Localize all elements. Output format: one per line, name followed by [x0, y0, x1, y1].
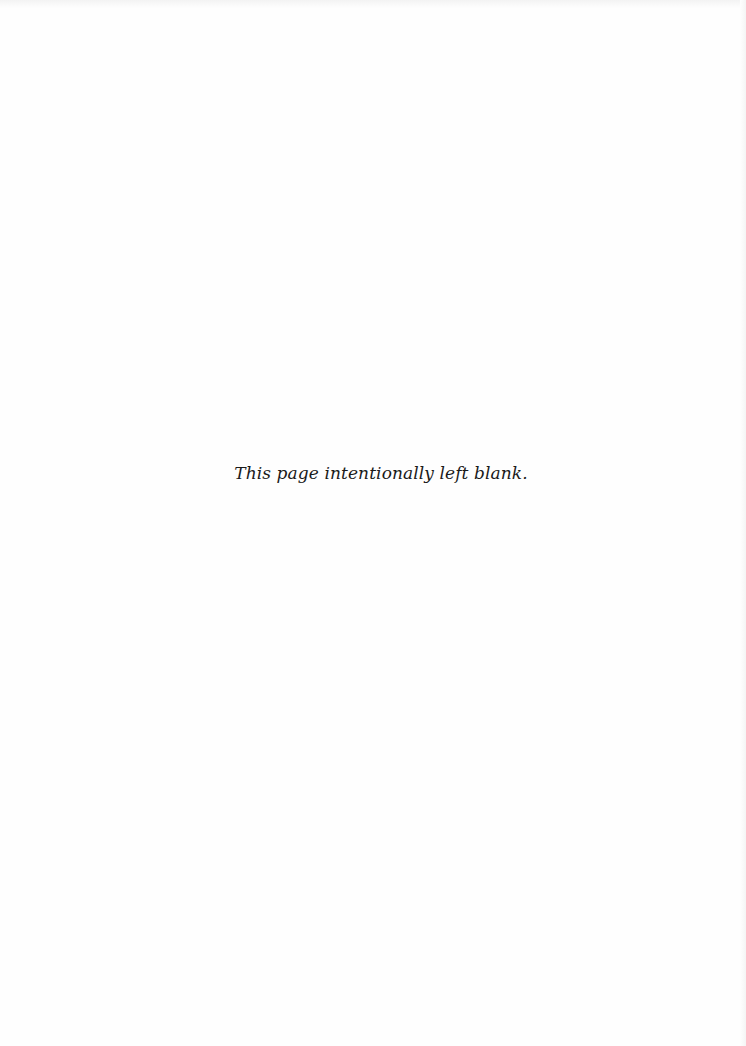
blank-page-notice-text: This page intentionally left blank.	[234, 463, 528, 483]
blank-page-notice: This page intentionally left blank.	[0, 463, 746, 483]
document-page: This page intentionally left blank.	[0, 0, 746, 1046]
